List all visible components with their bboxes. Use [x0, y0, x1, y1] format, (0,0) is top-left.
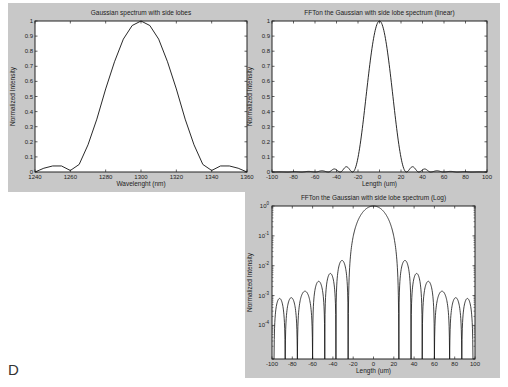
chart-fft-log: FFTon the Gaussian with side lobe spectr… — [246, 194, 481, 375]
y-tick-label: 1 — [267, 18, 271, 24]
x-tick-label: 60 — [441, 174, 448, 180]
x-tick-label: 20 — [390, 361, 397, 367]
x-tick-label: -20 — [349, 361, 358, 367]
y-tick-label: 0.9 — [25, 33, 34, 39]
x-tick-label: 80 — [451, 361, 458, 367]
x-tick-label: 1360 — [240, 174, 254, 180]
y-tick-label: 0.8 — [25, 48, 34, 54]
chart-fft-linear: FFTon the Gaussian with side lobe spectr… — [246, 9, 493, 188]
y-tick-label: 0.1 — [262, 154, 271, 160]
y-tick-label: 10-3 — [258, 291, 269, 299]
y-axis-label: Normalized Intensity — [246, 252, 254, 312]
y-tick-label: 0.9 — [262, 33, 271, 39]
x-axis-label: Wavelenght (nm) — [116, 180, 165, 188]
x-tick-label: 1340 — [205, 174, 219, 180]
y-tick-label: 0.8 — [262, 48, 271, 54]
x-tick-label: -80 — [289, 174, 298, 180]
x-tick-label: 100 — [482, 174, 493, 180]
chart-title: Gaussian spectrum with side lobes — [91, 9, 192, 17]
x-tick-label: 100 — [470, 361, 481, 367]
x-tick-label: 20 — [398, 174, 405, 180]
y-tick-label: 0.6 — [262, 78, 271, 84]
x-tick-label: 40 — [411, 361, 418, 367]
y-tick-label: 10-2 — [258, 261, 269, 269]
x-axis-label: Length (um) — [362, 180, 397, 188]
x-tick-label: -40 — [332, 174, 341, 180]
x-tick-label: 1280 — [99, 174, 113, 180]
x-tick-label: 1320 — [170, 174, 184, 180]
x-tick-label: -60 — [311, 174, 320, 180]
y-tick-label: 100 — [260, 201, 270, 209]
x-tick-label: 80 — [462, 174, 469, 180]
chart-gaussian-spectrum: Gaussian spectrum with side lobesWavelen… — [9, 9, 254, 188]
x-tick-label: 40 — [419, 174, 426, 180]
x-tick-label: 60 — [431, 361, 438, 367]
x-tick-label: 1260 — [64, 174, 78, 180]
y-tick-label: 0.2 — [262, 139, 271, 145]
x-tick-label: -80 — [288, 361, 297, 367]
y-tick-label: 0.7 — [262, 63, 271, 69]
chart-title: FFTon the Gaussian with side lobe spectr… — [301, 194, 446, 202]
x-axis-label: Length (um) — [356, 367, 391, 375]
x-tick-label: -60 — [308, 361, 317, 367]
y-tick-label: 1 — [30, 18, 34, 24]
y-tick-label: 0.6 — [25, 78, 34, 84]
y-tick-label: 0.1 — [25, 154, 34, 160]
y-tick-label: 0.3 — [262, 124, 271, 130]
charts-canvas: Gaussian spectrum with side lobesWavelen… — [0, 0, 508, 387]
y-tick-label: 10-1 — [258, 231, 269, 239]
y-axis-label: Normalized Intensity — [9, 66, 17, 126]
y-tick-label: 0.3 — [25, 124, 34, 130]
chart-title: FFTon the Gaussian with side lobe spectr… — [304, 9, 454, 17]
y-tick-label: 0.4 — [262, 109, 271, 115]
x-tick-label: 1300 — [134, 174, 148, 180]
y-tick-label: 10-4 — [258, 320, 269, 328]
y-tick-label: 0.7 — [25, 63, 34, 69]
y-tick-label: 0.2 — [25, 139, 34, 145]
x-tick-label: -20 — [354, 174, 363, 180]
figure-label: D — [8, 361, 19, 378]
y-tick-label: 0.4 — [25, 109, 34, 115]
y-tick-label: 0.5 — [262, 94, 271, 100]
y-axis-label: Normalized Intensity — [246, 66, 254, 126]
y-tick-label: 0.5 — [25, 94, 34, 100]
x-tick-label: -40 — [329, 361, 338, 367]
x-tick-label: -100 — [266, 361, 279, 367]
